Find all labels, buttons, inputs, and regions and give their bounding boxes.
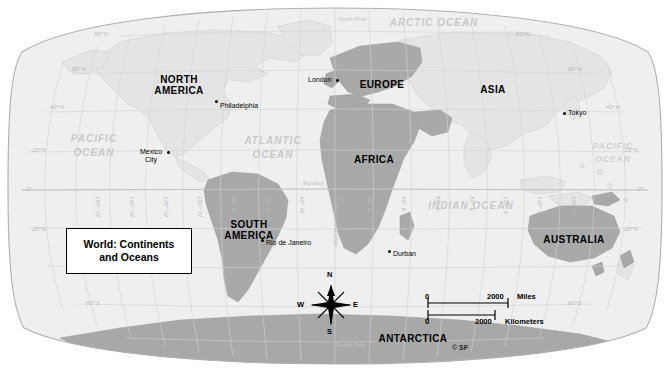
- ocean-label-atlantic-line2: OCEAN: [236, 149, 310, 160]
- city-label-durban: Durban: [393, 250, 416, 258]
- city-label-tokyo: Tokyo: [568, 109, 586, 117]
- copyright-notice: © SF: [452, 344, 468, 351]
- scale-km-unit: Kilometers: [505, 317, 544, 326]
- continent-label-europe: EUROPE: [354, 79, 410, 90]
- lon-label-60w: 60° W: [265, 196, 271, 213]
- lat-label-left-60s: 60°S: [86, 300, 100, 306]
- lon-label-40e: 40° E: [401, 196, 407, 212]
- city-label-philadelphia: Philadelphia: [220, 102, 258, 110]
- ocean-label-pacific-east-line2: OCEAN: [582, 154, 644, 165]
- north-arrow: [327, 285, 335, 296]
- north-pole-label: North Pole: [338, 16, 366, 22]
- lon-label-100e: 100° E: [503, 196, 509, 215]
- scale-miles-unit: Miles: [517, 292, 536, 301]
- lon-label-60e: 60° E: [435, 196, 441, 212]
- lon-label-80e: 80° E: [469, 196, 475, 212]
- continent-label-line1: AUSTRALIA: [538, 234, 610, 245]
- city-dot-tokyo: [563, 112, 566, 115]
- continent-label-australia: AUSTRALIA: [538, 234, 610, 245]
- continent-label-line1: ASIA: [472, 84, 514, 95]
- map-title-box: World: Continents and Oceans: [66, 228, 192, 274]
- city-dot-rio-de-janeiro: [261, 239, 264, 242]
- lon-label-40w: 40° W: [299, 196, 305, 213]
- lat-label-left-80n: 80°N: [94, 31, 108, 37]
- continent-label-line1: ANTARCTICA: [370, 333, 456, 344]
- ocean-label-atlantic: ATLANTIC: [236, 135, 310, 146]
- scale-km-value: 2000: [475, 317, 492, 326]
- lat-label-right-60n: 60°N: [568, 66, 582, 72]
- lon-label-20e: 20° E: [367, 196, 373, 212]
- scale-miles-zero: 0: [425, 292, 429, 301]
- ocean-label-pacific-west: PACIFIC: [60, 133, 128, 144]
- scale-km-zero: 0: [425, 317, 429, 326]
- compass-rose: N S W E: [300, 272, 362, 338]
- world-map-figure: NORTH AMERICA SOUTH AMERICA EUROPE AFRIC…: [0, 0, 670, 373]
- lon-label-100w: 100° W: [197, 196, 203, 217]
- city-label-rio-de-janeiro: Rio de Janeiro: [266, 239, 311, 247]
- continent-label-line1: NORTH: [148, 74, 210, 85]
- compass-label-west: W: [297, 300, 304, 309]
- continent-label-asia: ASIA: [472, 84, 514, 95]
- lat-label-right-60s: 60°S: [568, 300, 582, 306]
- continent-label-north-america: NORTH AMERICA: [148, 74, 210, 96]
- lat-label-left-40n: 40°N: [50, 104, 64, 110]
- city-dot-durban: [388, 250, 391, 253]
- south-pole-label: South Pole: [336, 342, 365, 348]
- city-label-london: London: [308, 76, 331, 84]
- continent-label-line1: SOUTH: [216, 219, 282, 230]
- equator-label: Equator: [303, 180, 324, 186]
- continent-label-line1: AFRICA: [348, 154, 400, 165]
- lon-label-prime-meridian: 0° Prime Meridian: [333, 196, 339, 247]
- lat-label-right-80n: 80°N: [516, 31, 530, 37]
- city-label-line2: City: [133, 156, 169, 164]
- lon-label-140w: 140° W: [129, 196, 135, 217]
- ocean-label-pacific-west-line2: OCEAN: [60, 147, 128, 158]
- continent-label-antarctica: ANTARCTICA: [370, 333, 456, 344]
- lat-label-left-0: 0°: [26, 186, 32, 192]
- lat-label-right-40n: 40°N: [606, 104, 620, 110]
- compass-label-south: S: [327, 327, 332, 336]
- lon-label-160w: 160° W: [95, 196, 101, 217]
- ocean-label-arctic: ARCTIC OCEAN: [384, 17, 484, 28]
- lat-label-right-20s: 20°S: [624, 226, 638, 232]
- compass-label-east: E: [353, 300, 358, 309]
- lon-label-120w: 120° W: [163, 196, 169, 217]
- continent-label-line2: AMERICA: [148, 85, 210, 96]
- scale-miles-value: 2000: [487, 292, 504, 301]
- lon-label-140e: 140° E: [571, 196, 577, 215]
- city-label-mexico-city: Mexico City: [133, 148, 169, 164]
- lat-label-right-20n: 20°N: [624, 147, 638, 153]
- lat-label-left-20n: 20°N: [32, 147, 46, 153]
- compass-label-north: N: [327, 270, 332, 279]
- continent-label-line1: EUROPE: [354, 79, 410, 90]
- city-label-line1: Mexico: [133, 148, 169, 156]
- lat-label-right-0: 0°: [638, 186, 644, 192]
- map-title-line2: and Oceans: [84, 251, 175, 264]
- lon-label-80w: 80° W: [231, 196, 237, 213]
- map-title-line1: World: Continents: [84, 238, 175, 251]
- city-dot-london: [336, 79, 339, 82]
- lon-label-120e: 120° E: [537, 196, 543, 215]
- city-dot-philadelphia: [215, 100, 218, 103]
- lat-label-left-20s: 20°S: [32, 226, 46, 232]
- map-scale-bar: 0 2000 Miles 0 2000 Kilometers: [425, 294, 550, 326]
- continent-label-africa: AFRICA: [348, 154, 400, 165]
- continent-label-south-america: SOUTH AMERICA: [216, 219, 282, 241]
- lat-label-left-60n: 60°N: [72, 66, 86, 72]
